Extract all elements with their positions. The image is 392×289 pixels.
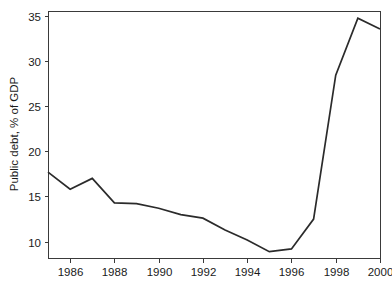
x-tick-label: 1996 [279,266,305,278]
x-tick-label: 1994 [235,266,261,278]
y-axis: 101520253035 [28,11,48,249]
line-chart: 101520253035 198619881990199219941996199… [0,0,392,289]
series-public-debt [48,18,380,251]
x-tick-label: 1986 [58,266,84,278]
chart-figure: 101520253035 198619881990199219941996199… [0,0,392,289]
x-tick-label: 1998 [324,266,350,278]
y-tick-label: 10 [28,237,41,249]
plot-frame [49,12,381,259]
y-tick-label: 30 [28,56,41,68]
x-tick-label: 1990 [147,266,173,278]
y-tick-label: 35 [28,11,41,23]
x-axis: 19861988199019921994199619982000 [58,259,392,279]
x-tick-label: 2000 [368,266,392,278]
y-axis-title: Public debt, % of GDP [8,76,20,191]
y-tick-label: 20 [28,146,41,158]
x-tick-label: 1992 [191,266,217,278]
x-tick-label: 1988 [102,266,128,278]
y-tick-label: 25 [28,101,41,113]
y-tick-label: 15 [28,191,41,203]
